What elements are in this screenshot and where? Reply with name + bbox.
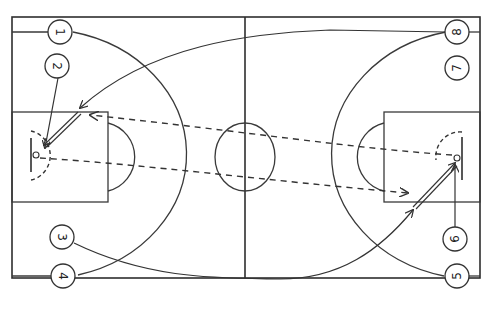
player-4[interactable]: 4 bbox=[51, 264, 75, 288]
player-8-label: 8 bbox=[450, 28, 464, 36]
player-8[interactable]: 8 bbox=[445, 20, 469, 44]
player-2-label: 2 bbox=[50, 62, 64, 70]
left-free-throw-arc bbox=[108, 123, 135, 191]
right-free-throw-arc bbox=[357, 123, 384, 191]
court-boundary bbox=[12, 17, 480, 278]
player-1[interactable]: 1 bbox=[48, 20, 72, 44]
player-6[interactable]: 6 bbox=[443, 227, 467, 251]
path-player-3-cut bbox=[74, 210, 413, 279]
left-hoop bbox=[33, 152, 39, 158]
left-double-line-b bbox=[47, 114, 81, 147]
movement-paths bbox=[44, 30, 457, 279]
player-6-label: 6 bbox=[448, 235, 462, 243]
player-1-label: 1 bbox=[53, 28, 67, 36]
right-three-point-arc bbox=[332, 32, 446, 276]
player-4-label: 4 bbox=[56, 272, 70, 280]
player-5[interactable]: 5 bbox=[445, 264, 469, 288]
player-5-label: 5 bbox=[450, 272, 464, 280]
player-7-label: 7 bbox=[450, 64, 464, 72]
player-3-label: 3 bbox=[55, 233, 69, 241]
left-half-court bbox=[12, 32, 187, 276]
right-double-line-a bbox=[413, 163, 455, 207]
right-key bbox=[384, 112, 480, 202]
pass-lines bbox=[40, 115, 452, 193]
pass-left-to-right bbox=[40, 158, 408, 193]
player-3[interactable]: 3 bbox=[50, 225, 74, 249]
pass-right-to-left bbox=[90, 115, 452, 155]
left-key bbox=[12, 112, 108, 202]
basketball-court-diagram: 1 2 3 4 5 6 7 8 bbox=[0, 0, 490, 314]
path-player-8-cut bbox=[80, 30, 446, 108]
player-2[interactable]: 2 bbox=[45, 54, 69, 78]
player-7[interactable]: 7 bbox=[445, 56, 469, 80]
right-hoop bbox=[454, 155, 460, 161]
